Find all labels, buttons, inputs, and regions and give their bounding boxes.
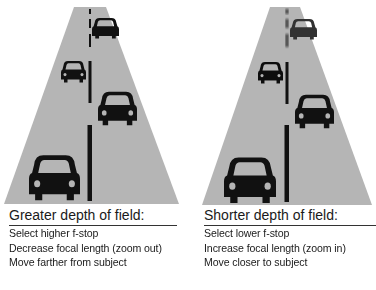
tips-list: Select higher f-stop Decrease focal leng… xyxy=(9,226,177,270)
shorter-depth-panel: Shorter depth of field: Select lower f-s… xyxy=(187,0,374,290)
tip-item: Move closer to subject xyxy=(204,255,362,270)
tip-item: Move farther from subject xyxy=(9,255,164,270)
road-illustration-shallow xyxy=(187,0,374,210)
tip-item: Decrease focal length (zoom out) xyxy=(9,241,164,256)
tip-item: Select higher f-stop xyxy=(9,226,164,241)
caption-heading: Shorter depth of field: xyxy=(204,206,376,226)
caption-shorter: Shorter depth of field: Select lower f-s… xyxy=(204,206,376,270)
caption-heading: Greater depth of field: xyxy=(9,206,177,226)
road-illustration-sharp xyxy=(0,0,187,210)
tip-item: Select lower f-stop xyxy=(204,226,362,241)
tips-list: Select lower f-stop Increase focal lengt… xyxy=(204,226,376,270)
greater-depth-panel: Greater depth of field: Select higher f-… xyxy=(0,0,187,290)
caption-greater: Greater depth of field: Select higher f-… xyxy=(9,206,177,270)
tip-item: Increase focal length (zoom in) xyxy=(204,241,362,256)
